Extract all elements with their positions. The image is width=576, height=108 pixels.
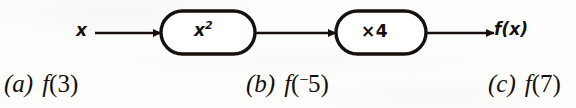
exercise-a-close-paren: ) (70, 70, 78, 97)
output-expression-label: f(x) (494, 21, 528, 38)
exercise-c-open-paren: ( (532, 70, 540, 97)
exercise-b-marker: (b) (246, 70, 275, 97)
exercise-a-marker: (a) (4, 70, 33, 97)
machine-box-times-four-label: ×4 (361, 23, 388, 40)
exercise-b-value: 5 (308, 70, 321, 97)
exercise-item-b: (b)f(−5) (246, 66, 329, 102)
exercise-list: (a)f(3) (b)f(−5) (c)f(7) (0, 66, 576, 108)
exercise-c-marker: (c) (488, 70, 516, 97)
exercise-b-expression: f(−5) (284, 70, 329, 97)
square-exponent: 2 (205, 19, 213, 32)
square-base: x (194, 20, 205, 40)
exercise-item-c: (c)f(7) (488, 66, 561, 102)
input-variable-label: x (76, 22, 87, 39)
exercise-c-expression: f(7) (525, 70, 561, 97)
exercise-a-expression: f(3) (42, 70, 78, 97)
exercise-c-value: 7 (540, 70, 553, 97)
exercise-c-close-paren: ) (553, 70, 561, 97)
exercise-b-negative-sign: − (299, 71, 308, 88)
exercise-c-function: f (525, 70, 532, 97)
machine-box-square-label: x2 (194, 22, 213, 39)
exercise-b-close-paren: ) (320, 70, 328, 97)
exercise-a-value: 3 (57, 70, 70, 97)
figure-page: x x2 ×4 f(x) (a)f(3) (b)f(−5) (c)f(7) (0, 0, 576, 108)
exercise-item-a: (a)f(3) (4, 66, 78, 102)
